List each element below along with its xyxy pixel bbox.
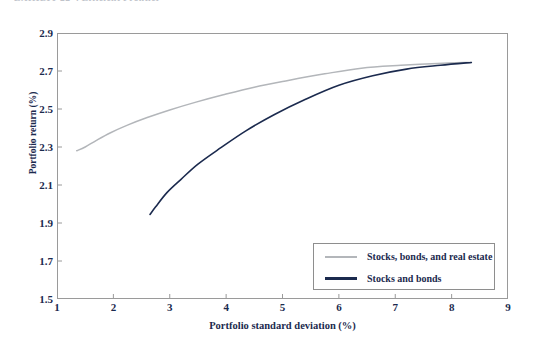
- x-tick-label: 6: [327, 301, 351, 313]
- legend-swatch-dark: [325, 277, 357, 280]
- legend-item-stocks-and-bonds: Stocks and bonds: [314, 267, 494, 290]
- x-axis-title: Portfolio standard deviation (%): [57, 320, 508, 331]
- x-tick-label: 9: [496, 301, 520, 313]
- legend-item-stocks-bonds-real-estate: Stocks, bonds, and real estate: [314, 245, 494, 268]
- x-tick-label: 2: [101, 301, 125, 313]
- x-tick-label: 5: [271, 301, 295, 313]
- x-tick-label: 3: [158, 301, 182, 313]
- y-tick-label: 1.7: [19, 255, 53, 267]
- y-axis-title: Portfolio return (%): [28, 43, 38, 223]
- chart-legend: Stocks, bonds, and real estate Stocks an…: [313, 243, 495, 290]
- legend-label: Stocks and bonds: [367, 273, 441, 284]
- legend-label: Stocks, bonds, and real estate: [367, 251, 492, 262]
- efficient-frontier-figure: EXHIBIT 22-4 Efficient Frontier 1.51.71.…: [0, 0, 537, 348]
- x-tick-label: 4: [214, 301, 238, 313]
- x-tick-label: 8: [440, 301, 464, 313]
- legend-swatch-light: [325, 256, 357, 258]
- y-tick-label: 2.9: [19, 27, 53, 39]
- x-tick-label: 1: [45, 301, 69, 313]
- x-tick-label: 7: [383, 301, 407, 313]
